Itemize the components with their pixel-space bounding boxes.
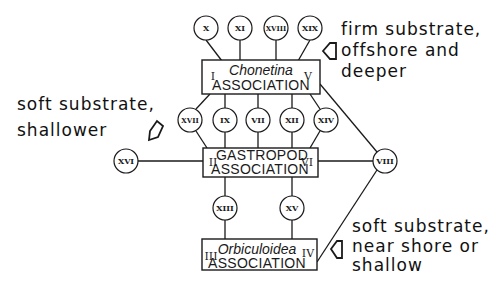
node-xvi: XVI — [114, 149, 138, 173]
svg-text:VIII: VIII — [375, 156, 394, 166]
annotation-soft-shallower: soft substrate, shallower — [17, 94, 155, 140]
arrow-left-icon — [323, 43, 336, 59]
node-viii: VIII — [373, 149, 397, 173]
svg-text:IX: IX — [220, 115, 231, 125]
svg-text:ASSOCIATION: ASSOCIATION — [208, 255, 306, 271]
node-xvii: XVII — [178, 108, 202, 132]
svg-text:ASSOCIATION: ASSOCIATION — [212, 77, 310, 93]
orbiculoidea-association-box: III IV Orbiculoidea ASSOCIATION — [202, 239, 317, 271]
svg-text:soft substrate,: soft substrate, — [17, 94, 155, 114]
svg-text:XIII: XIII — [216, 203, 234, 213]
arrow-down-left-icon — [149, 121, 163, 140]
annotation-firm-substrate: firm substrate, offshore and deeper — [341, 19, 481, 81]
node-xix: XIX — [298, 16, 322, 40]
svg-text:XVII: XVII — [181, 116, 198, 125]
svg-text:XI: XI — [235, 23, 245, 33]
svg-text:XV: XV — [286, 203, 299, 213]
chonetina-association-box: I V Chonetina ASSOCIATION — [202, 60, 320, 94]
svg-text:soft substrate,: soft substrate, — [352, 216, 490, 236]
node-ix: IX — [213, 108, 237, 132]
svg-text:XIX: XIX — [302, 23, 319, 33]
node-xiv: XIV — [314, 108, 338, 132]
svg-text:shallower: shallower — [17, 120, 107, 140]
annotation-soft-near-shore: soft substrate, near shore or shallow — [352, 216, 490, 275]
svg-text:deeper: deeper — [341, 61, 407, 81]
node-x: X — [194, 16, 218, 40]
svg-text:firm substrate,: firm substrate, — [341, 19, 481, 39]
svg-text:near shore or: near shore or — [352, 236, 479, 256]
node-xv: XV — [280, 196, 304, 220]
svg-text:shallow: shallow — [352, 255, 423, 275]
svg-text:VII: VII — [250, 115, 265, 125]
association-diagram: X XI XVIII XIX I V Chonetina ASSOCIATION… — [0, 0, 501, 287]
svg-text:X: X — [203, 23, 210, 33]
node-xiii: XIII — [213, 196, 237, 220]
svg-text:XII: XII — [285, 115, 299, 125]
svg-text:ASSOCIATION: ASSOCIATION — [211, 161, 309, 177]
node-xviii: XVIII — [264, 16, 288, 40]
svg-text:offshore and: offshore and — [341, 40, 460, 60]
node-xii: XII — [280, 108, 304, 132]
svg-text:XVIII: XVIII — [266, 24, 287, 33]
svg-text:Chonetina: Chonetina — [229, 62, 293, 78]
node-vii: VII — [246, 108, 270, 132]
gastropod-association-box: II VI GASTROPOD ASSOCIATION — [203, 147, 318, 177]
svg-text:XIV: XIV — [318, 115, 335, 125]
arrow-left-icon — [331, 241, 342, 258]
svg-text:XVI: XVI — [118, 156, 134, 166]
node-xi: XI — [228, 16, 252, 40]
